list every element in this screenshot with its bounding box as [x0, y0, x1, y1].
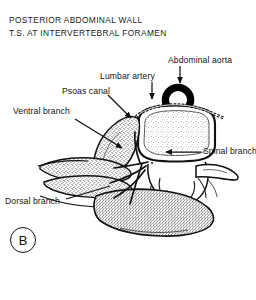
label-spinal-branch: Spinal branch	[203, 146, 256, 156]
label-lumbar-artery: Lumbar artery	[100, 71, 155, 81]
label-ventral-branch: Ventral branch	[13, 106, 70, 116]
label-dorsal-branch: Dorsal branch	[5, 196, 60, 206]
panel-letter-ring	[10, 227, 36, 253]
panel-letter-badge: B	[10, 227, 36, 253]
figure-page: POSTERIOR ABDOMINAL WALL T.S. AT INTERVE…	[0, 0, 256, 300]
leader-psoas-canal	[108, 95, 131, 118]
label-abdominal-aorta: Abdominal aorta	[168, 55, 232, 65]
label-psoas-canal: Psoas canal	[62, 86, 110, 96]
